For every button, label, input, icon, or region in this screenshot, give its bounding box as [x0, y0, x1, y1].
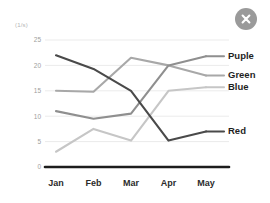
y-axis-tick-label: 15 [34, 87, 42, 94]
x-axis-tick-label: Jan [48, 178, 64, 188]
y-axis-tick-label: 20 [34, 62, 42, 69]
legend-label: Blue [228, 81, 249, 92]
y-axis-tick-label: 10 [34, 113, 42, 120]
chart-dialog: (1/s) 0510152025 JanFebMarAprMay PupleGr… [0, 0, 270, 203]
x-axis-tick-label: Apr [161, 178, 177, 188]
legend-label: Puple [228, 50, 254, 61]
y-axis-tick-label: 5 [37, 138, 41, 145]
x-axis-tick-labels: JanFebMarAprMay [48, 178, 215, 188]
x-axis-tick-label: Mar [123, 178, 140, 188]
x-axis-tick-label: Feb [85, 178, 102, 188]
y-axis-tick-label: 0 [37, 163, 41, 170]
x-axis-tick-label: May [197, 178, 215, 188]
legend-label: Green [228, 69, 256, 80]
series-line-red [56, 55, 206, 140]
y-axis-tick-label: 25 [34, 36, 42, 43]
line-chart: 0510152025 JanFebMarAprMay PupleGreenBlu… [0, 0, 270, 203]
chart-legend: PupleGreenBlueRed [206, 50, 256, 136]
legend-label: Red [228, 125, 246, 136]
y-axis-tick-labels: 0510152025 [34, 36, 42, 170]
data-series-group [56, 55, 206, 152]
